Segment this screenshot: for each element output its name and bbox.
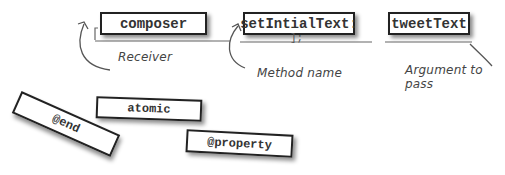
method-label: setIntialText: — [240, 16, 358, 32]
atomic-card: atomic — [96, 96, 203, 122]
argument-label: tweetText — [391, 16, 467, 32]
end-label: @end — [50, 112, 82, 137]
atomic-label: atomic — [127, 101, 171, 116]
property-label: @property — [207, 135, 272, 152]
argument-card: tweetText — [388, 12, 470, 35]
method-trailing-text: ]; — [290, 32, 303, 44]
argument-annotation: Argument to pass — [405, 63, 505, 91]
receiver-card: composer — [100, 12, 207, 35]
message-syntax-diagram: composer setIntialText: ]; tweetText Rec… — [0, 0, 505, 175]
receiver-annotation: Receiver — [118, 50, 172, 64]
receiver-label: composer — [120, 16, 187, 32]
method-annotation: Method name — [257, 66, 342, 80]
